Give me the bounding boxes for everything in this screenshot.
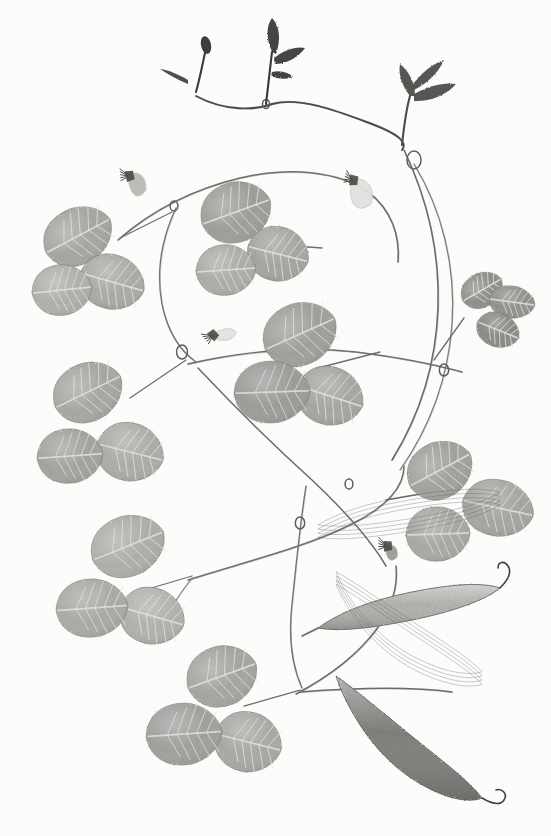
paper-grain-overlay	[0, 0, 551, 836]
illustration-canvas	[0, 0, 551, 836]
botanical-illustration-plate: Winged bean vine — botanical pencil stud…	[0, 0, 551, 836]
